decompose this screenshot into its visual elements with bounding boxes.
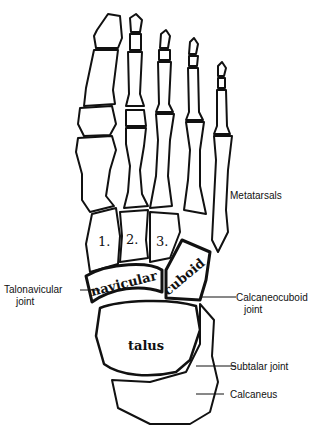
talus-label: talus [128,338,164,353]
hallux-phalanges [78,14,122,136]
talonavicular-label-line2: joint [16,296,34,307]
toe-4-phalanges [186,38,203,120]
metatarsals-label: Metatarsals [230,190,282,201]
foot-bones-illustration: 1. 2. 3. navicular cuboid talus [0,0,318,447]
toe-2-phalanges [126,14,146,126]
talonavicular-label-line1: Talonavicular [4,284,62,295]
toe-5-phalanges [214,62,230,134]
cuneiform-2-label: 2. [126,232,138,247]
subtalar-label: Subtalar joint [230,361,288,372]
cuneiform-1-label: 1. [98,234,110,249]
calcaneocuboid-label-line1: Calcaneocuboid [236,292,308,303]
toe-3-phalanges [156,30,173,112]
calcaneocuboid-label-line2: joint [244,304,262,315]
calcaneus-label: Calcaneus [230,389,277,400]
cuneiform-3-label: 3. [156,234,168,249]
